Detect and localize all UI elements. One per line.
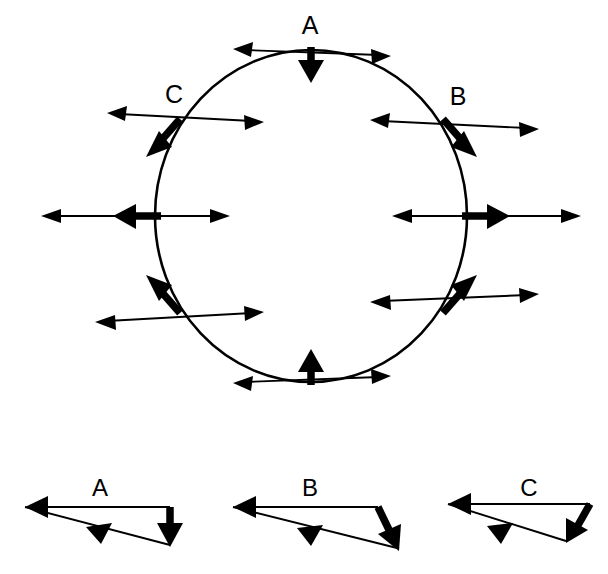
thick-arrow-down-left-upper-left <box>146 119 180 157</box>
station-lower-left <box>95 275 264 330</box>
inset-label-B: B <box>302 474 318 501</box>
label-A-circle: A <box>302 11 319 39</box>
inset-A-vector-right-thick-down <box>157 507 183 547</box>
label-B-circle: B <box>450 82 467 110</box>
thin-arrow-double-horizontal-upper-left <box>107 106 264 130</box>
label-C-circle: C <box>165 80 183 108</box>
inset-C-vector-top-thin-left <box>448 493 590 515</box>
station-top: A <box>233 11 391 83</box>
inset-triangle-C: C <box>448 474 590 544</box>
inset-B-vector-hypotenuse-thin <box>233 507 397 548</box>
thick-arrow-up-left-lower-left <box>146 275 180 313</box>
station-right <box>392 204 581 229</box>
inset-A-vector-hypotenuse-thin <box>25 507 170 545</box>
inset-triangle-A: A <box>25 474 183 547</box>
thick-arrow-right-right <box>462 204 510 229</box>
vector-field-figure: A B <box>0 0 608 574</box>
inset-triangle-B: B <box>233 474 401 551</box>
inset-C-vector-hypotenuse-thin <box>448 504 566 544</box>
inset-C-vector-right-thick-downleft <box>566 504 590 543</box>
station-left <box>41 204 230 229</box>
inset-label-C: C <box>520 474 537 501</box>
station-upper-right: B <box>370 82 539 157</box>
thick-arrow-left-left <box>113 204 161 229</box>
inset-label-A: A <box>92 474 108 501</box>
